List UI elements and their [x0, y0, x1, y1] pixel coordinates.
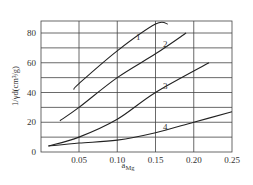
x-tick-label: 0.20 — [186, 155, 202, 165]
curve-label-2: 2 — [163, 39, 168, 49]
curve-labels: 1234 — [136, 32, 168, 132]
y-tick-label: 80 — [27, 28, 37, 38]
curve-1 — [74, 22, 168, 89]
x-tick-label: 0.05 — [71, 155, 87, 165]
curve-label-3: 3 — [163, 81, 168, 91]
curve-4 — [48, 112, 232, 146]
y-tick-label: 40 — [27, 88, 37, 98]
y-tick-label: 0 — [32, 147, 37, 157]
x-axis-label: aMg — [122, 160, 136, 171]
y-tick-label: 20 — [27, 117, 37, 127]
x-tick-label: 0.15 — [148, 155, 164, 165]
chart: 0.050.100.150.200.25020406080 1234 aMg 1… — [0, 0, 253, 185]
curve-label-1: 1 — [136, 32, 141, 42]
curve-label-4: 4 — [163, 122, 168, 132]
x-tick-label: 0.25 — [224, 155, 240, 165]
y-axis-label: 1/γd(cm³/g) — [10, 66, 20, 106]
curve-3 — [48, 63, 209, 146]
y-tick-label: 60 — [27, 58, 37, 68]
